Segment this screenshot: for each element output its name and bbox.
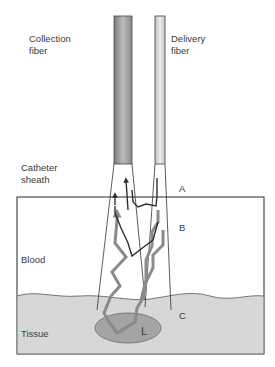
delivery-fiber [155,16,165,164]
label-sheath-line2: sheath [21,174,57,186]
label-sheath-line1: Catheter [21,162,57,174]
label-delivery-line1: Delivery [171,33,205,45]
label-collection-fiber: Collection fiber [29,33,71,57]
label-delivery-fiber: Delivery fiber [171,33,205,57]
label-blood: Blood [21,254,45,266]
label-collection-line1: Collection [29,33,71,45]
label-delivery-line2: fiber [171,45,205,57]
label-collection-line2: fiber [29,45,71,57]
label-tissue: Tissue [21,328,49,340]
label-b: B [179,222,185,234]
collection-fiber [114,16,132,164]
label-lesion: L [141,325,147,337]
label-a: A [179,183,185,195]
label-catheter-sheath: Catheter sheath [21,162,57,186]
label-c: C [179,310,186,322]
